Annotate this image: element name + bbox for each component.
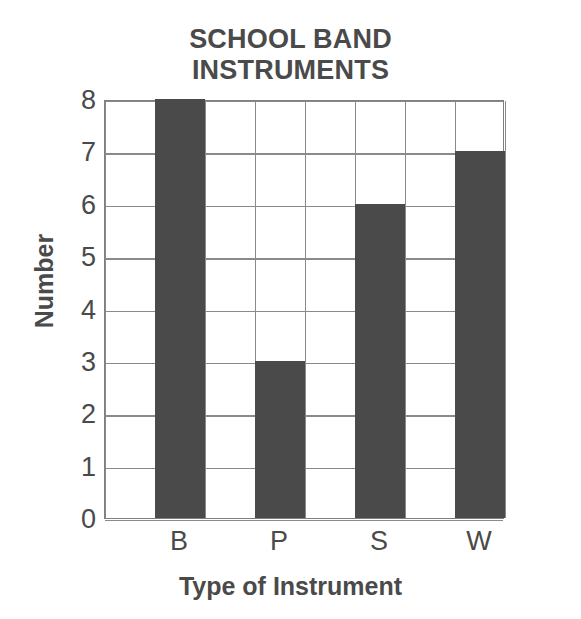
chart-title: SCHOOL BAND INSTRUMENTS <box>0 24 581 87</box>
y-tick-label-3: 3 <box>56 348 96 375</box>
x-axis-title: Type of Instrument <box>0 572 581 601</box>
bar-P <box>255 361 305 518</box>
chart-title-line-2: INSTRUMENTS <box>0 55 581 86</box>
y-tick-label-7: 7 <box>56 139 96 166</box>
y-axis-tick-labels: 876543210 <box>56 100 96 519</box>
y-tick-label-4: 4 <box>56 296 96 323</box>
grid-line-vertical <box>505 101 506 518</box>
bar-S <box>355 204 405 518</box>
y-tick-label-8: 8 <box>56 87 96 114</box>
y-tick-label-5: 5 <box>56 244 96 271</box>
x-tick-label-B: B <box>149 527 209 557</box>
chart-title-line-1: SCHOOL BAND <box>0 24 581 55</box>
bar-series <box>105 101 503 518</box>
y-tick-label-1: 1 <box>56 453 96 480</box>
x-tick-label-S: S <box>349 527 409 557</box>
x-axis-tick-labels: BPSW <box>104 527 504 565</box>
x-tick-label-W: W <box>449 527 509 557</box>
bar-W <box>455 151 505 518</box>
x-tick-label-P: P <box>249 527 309 557</box>
y-tick-label-6: 6 <box>56 191 96 218</box>
y-tick-label-2: 2 <box>56 401 96 428</box>
bar-B <box>155 99 205 518</box>
y-tick-label-0: 0 <box>56 506 96 533</box>
plot-area <box>104 100 504 519</box>
grid-line-horizontal <box>105 520 503 521</box>
